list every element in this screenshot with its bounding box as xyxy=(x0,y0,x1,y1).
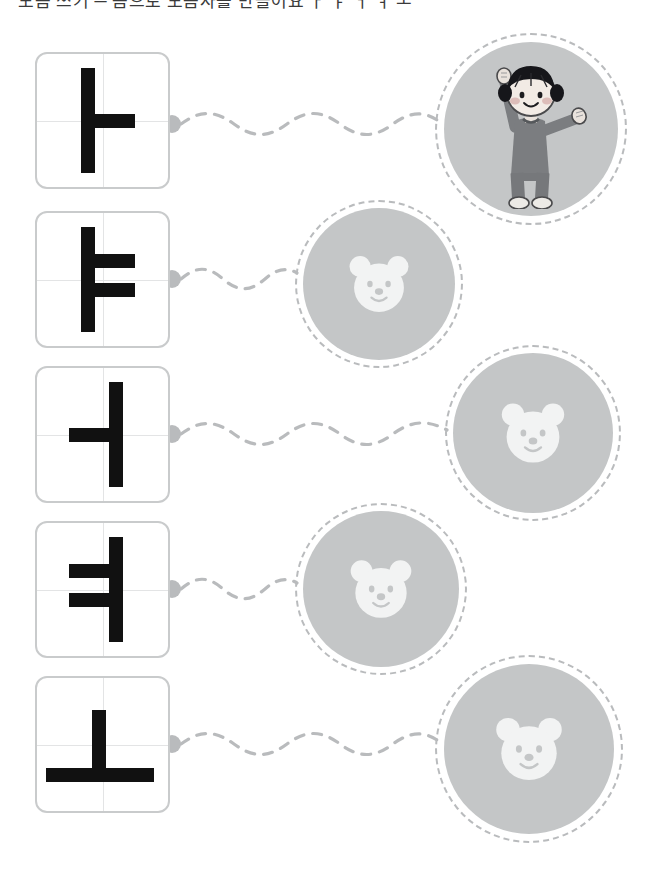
page-title: 모음 쓰기 ─ 몸으로 모음자를 만들어요 ㅏ ㅑ ㅓ ㅕ ㅗ xyxy=(18,0,413,12)
connector-line-3 xyxy=(163,423,447,445)
vowel-stroke-vertical xyxy=(81,68,95,173)
vowel-stroke-branch-left xyxy=(69,428,109,442)
photo-circle-2[interactable]: 사진 자리 표시 곰 아이콘 xyxy=(295,200,463,368)
vowel-stroke-vertical xyxy=(109,537,123,642)
vowel-stroke-base-horizontal xyxy=(46,768,154,782)
photo-area xyxy=(453,353,613,513)
grid-guide-vertical xyxy=(103,523,104,656)
photo-circle-1[interactable]: 아이가 한 팔을 위로 들고 한 팔을 옆으로 뻗은 모습 xyxy=(435,33,627,225)
child-pose-illustration xyxy=(471,49,591,209)
vowel-card-o[interactable]: ㅗ xyxy=(35,676,170,813)
photo-circle-4[interactable]: 사진 자리 표시 곰 아이콘 xyxy=(295,503,467,675)
photo-circle-5[interactable]: 사진 자리 표시 곰 아이콘 xyxy=(435,655,623,843)
photo-circle-3[interactable]: 사진 자리 표시 곰 아이콘 xyxy=(445,345,621,521)
connector-line-2 xyxy=(163,269,297,289)
connector-line-5 xyxy=(163,734,437,755)
vowel-stroke-branch-right-lower xyxy=(95,283,135,297)
connector-line-4 xyxy=(163,579,297,599)
page-header-cropped: 모음 쓰기 ─ 몸으로 모음자를 만들어요 ㅏ ㅑ ㅓ ㅕ ㅗ xyxy=(0,0,646,12)
vowel-card-ya[interactable]: ㅑ xyxy=(35,211,170,348)
vowel-stroke-vertical xyxy=(81,227,95,332)
connector-line-1 xyxy=(163,114,437,135)
vowel-stroke-branch-right-upper xyxy=(95,254,135,268)
grid-guide-vertical xyxy=(103,213,104,346)
vowel-stroke-branch-right xyxy=(95,114,135,128)
vowel-stroke-branch-left-lower xyxy=(69,593,109,607)
bear-placeholder-icon xyxy=(341,250,417,318)
photo-area xyxy=(444,664,614,834)
vowel-card-a[interactable]: ㅏ xyxy=(35,52,170,189)
bear-placeholder-icon xyxy=(487,711,571,787)
vowel-stroke-vertical xyxy=(92,710,106,768)
photo-area xyxy=(444,42,618,216)
photo-area xyxy=(303,511,459,667)
photo-area xyxy=(303,208,455,360)
vowel-card-eo[interactable]: ㅓ xyxy=(35,366,170,503)
bear-placeholder-icon xyxy=(493,397,573,469)
bear-placeholder-icon xyxy=(342,554,420,624)
vowel-stroke-branch-left-upper xyxy=(69,564,109,578)
vowel-card-yeo[interactable]: ㅕ xyxy=(35,521,170,658)
worksheet-page: 모음 쓰기 ─ 몸으로 모음자를 만들어요 ㅏ ㅑ ㅓ ㅕ ㅗ xyxy=(0,0,646,871)
vowel-stroke-vertical xyxy=(109,382,123,487)
